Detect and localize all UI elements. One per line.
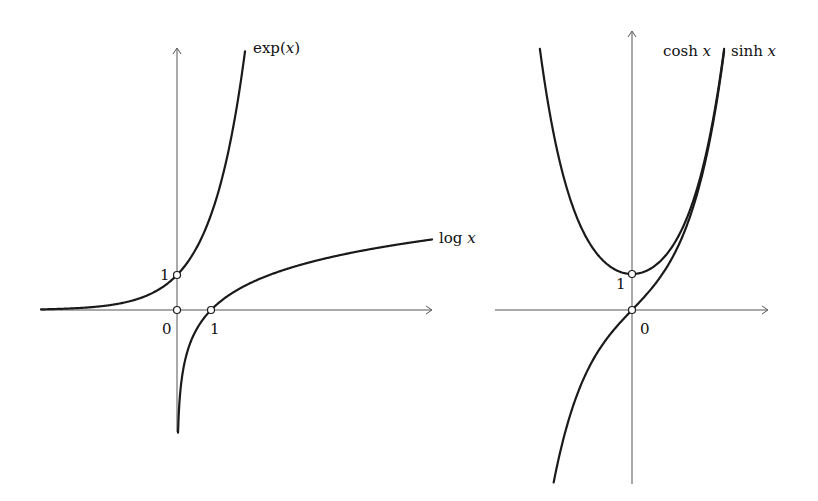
right-panel: cosh x sinh x 1 0 <box>495 31 777 484</box>
left-origin-point <box>174 307 181 314</box>
cosh-label: cosh x <box>663 42 712 60</box>
right-origin-label: 0 <box>640 320 650 338</box>
function-graphs-figure: exp(x) log x 1 0 1 cosh x sinh x 1 0 <box>0 0 818 501</box>
left-y-one-label: 1 <box>160 266 170 284</box>
left-x-one-label: 1 <box>210 320 220 338</box>
exp-y-intercept-point <box>174 272 181 279</box>
right-y-one-label: 1 <box>616 275 626 293</box>
right-origin-point <box>629 307 636 314</box>
log-label: log x <box>439 229 476 247</box>
sinh-curve <box>554 51 724 482</box>
cosh-y-intercept-point <box>629 271 636 278</box>
left-origin-label: 0 <box>162 320 172 338</box>
exp-curve <box>41 51 245 309</box>
log-x-intercept-point <box>208 307 215 314</box>
left-panel: exp(x) log x 1 0 1 <box>41 39 476 433</box>
sinh-label: sinh x <box>731 42 777 60</box>
exp-label: exp(x) <box>253 39 300 57</box>
